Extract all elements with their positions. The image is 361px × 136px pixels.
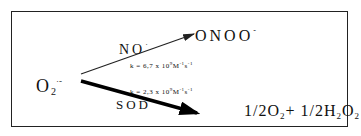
superoxide-reactant: O2·- (36, 77, 62, 97)
rate-constant-sod: k = 2,3 x 109M-1s-1 (130, 87, 193, 96)
oxygen-peroxide-product: 1/2O2+ 1/2H2O2 (244, 103, 360, 121)
peroxynitrite-product: ONOO- (195, 27, 256, 44)
nitric-oxide-label: NO· (119, 41, 151, 57)
rate-constant-no: k = 6,7 x 109M-1s-1 (130, 61, 193, 70)
sod-label: SOD (116, 98, 151, 111)
